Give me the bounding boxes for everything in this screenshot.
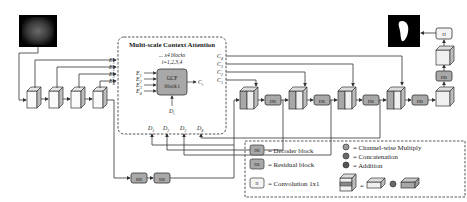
- svg-text:DB: DB: [417, 99, 423, 104]
- svg-text:D3: D3: [179, 125, 186, 133]
- svg-text:H: H: [256, 181, 259, 186]
- addition-icon: [343, 162, 349, 168]
- encoder-stack: [27, 87, 107, 108]
- c-labels: C4 C3 C2 C1: [217, 53, 223, 85]
- legend-h-label: = Convolution 1x1: [268, 180, 319, 187]
- mca-blocks-note: ... x4 blocks: [159, 52, 185, 58]
- svg-text:block i: block i: [164, 83, 180, 89]
- svg-text:DB: DB: [254, 148, 260, 153]
- legend-slab-2-icon: [401, 178, 419, 188]
- svg-text:D4: D4: [196, 125, 203, 133]
- e-labels-inner: E1 E2 E3 E4: [135, 70, 156, 96]
- concat-icon: [343, 153, 349, 159]
- svg-text:RB: RB: [254, 162, 260, 167]
- c-output-lines: [226, 56, 402, 86]
- mca-index-note: i=1,2,3,4: [162, 59, 183, 65]
- svg-text:D2: D2: [162, 125, 169, 133]
- svg-text:RB: RB: [136, 177, 142, 182]
- input-image: [19, 15, 57, 47]
- legend-rb-label: = Residual block: [268, 161, 315, 168]
- legend: DB = Decoder block RB = Residual block H…: [245, 141, 465, 197]
- svg-text:DB: DB: [319, 99, 325, 104]
- architecture-diagram: Multi-scale Context Attention ... x4 blo…: [0, 0, 467, 202]
- svg-text:DB: DB: [441, 75, 447, 80]
- gcf-block: GCF block i: [157, 69, 187, 95]
- legend-concat-op-icon: [390, 181, 396, 187]
- output-cube-2: [436, 46, 454, 65]
- gcf-input-label: Di: [168, 108, 174, 116]
- legend-db-label: = Decoder block: [268, 147, 314, 154]
- svg-text:C4: C4: [217, 53, 223, 61]
- svg-text:GCF: GCF: [167, 75, 178, 81]
- decoder-stack: DB DB DB DB: [240, 28, 454, 109]
- encoder-cube-4: [93, 87, 107, 108]
- encoder-cube-3: [71, 87, 85, 108]
- concat-cube-4: [387, 87, 405, 109]
- output-cube-1: [436, 87, 454, 106]
- legend-add-label: = Addition: [353, 162, 383, 169]
- legend-concat-cube-icon: [340, 174, 356, 191]
- svg-text:D1: D1: [147, 125, 154, 133]
- encoder-skip-lines: [35, 60, 130, 178]
- svg-text:E4: E4: [108, 78, 115, 86]
- svg-text:DB: DB: [368, 99, 374, 104]
- svg-text:C3: C3: [217, 61, 223, 69]
- gcf-output-label: Ci: [198, 79, 203, 87]
- d-labels: D1 D2 D3 D4: [147, 125, 203, 133]
- multiply-icon: [343, 144, 349, 150]
- svg-text:=: =: [360, 182, 364, 189]
- encoder-cube-2: [49, 87, 63, 108]
- mca-title: Multi-scale Context Attention: [129, 41, 215, 48]
- svg-text:C2: C2: [217, 69, 223, 77]
- residual-path: RB RB: [131, 100, 239, 183]
- legend-slab-1-icon: [367, 178, 385, 188]
- svg-text:RB: RB: [159, 177, 165, 182]
- encoder-cube-1: [27, 87, 41, 108]
- e-labels-outer: E1 E2 E3 E4: [108, 57, 115, 86]
- output-mask-image: [388, 15, 420, 47]
- svg-text:DB: DB: [270, 99, 276, 104]
- concat-cube-1: [240, 87, 258, 109]
- legend-concat-label: = Concatenation: [353, 153, 398, 160]
- concat-cube-2: [289, 87, 307, 109]
- svg-text:H: H: [442, 32, 446, 37]
- concat-cube-3: [338, 87, 356, 109]
- legend-multiply-label: = Channel-wise Multiply: [353, 144, 422, 151]
- svg-text:C1: C1: [217, 77, 223, 85]
